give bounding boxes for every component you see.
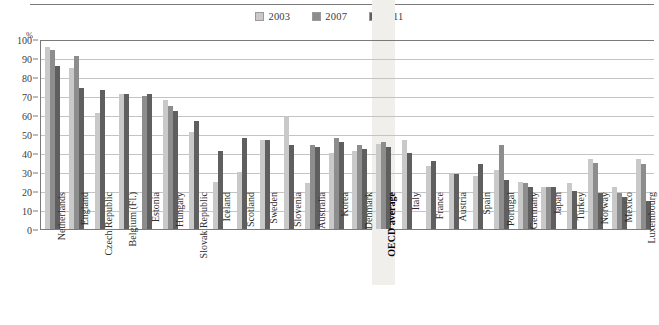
x-axis-label: Germany	[528, 192, 539, 229]
x-axis-label: Netherlands	[56, 192, 67, 240]
x-axis-label: Korea	[339, 192, 350, 216]
header-rule	[30, 4, 654, 5]
x-axis-label: Italy	[410, 192, 421, 210]
y-axis-tick-label: 100	[17, 35, 32, 46]
x-axis-label: England	[79, 192, 90, 225]
legend-item-2003[interactable]: 2003	[255, 11, 290, 22]
legend-swatch-icon	[312, 12, 321, 21]
y-axis-tick-mark	[33, 173, 38, 174]
x-axis-label: Slovak Republic	[198, 192, 209, 258]
y-axis-tick-mark	[33, 116, 38, 117]
y-axis-tick-label: 90	[22, 54, 32, 65]
y-axis-tick-label: 20	[22, 187, 32, 198]
legend-label: 2003	[268, 11, 290, 22]
x-axis-label: Turkey	[575, 192, 586, 221]
x-axis-label: Estonia	[150, 192, 161, 222]
legend-item-2007[interactable]: 2007	[312, 11, 347, 22]
y-axis-tick-label: 60	[22, 111, 32, 122]
y-axis-tick-mark	[33, 230, 38, 231]
y-axis-tick-label: 30	[22, 168, 32, 179]
y-axis-tick-mark	[33, 154, 38, 155]
y-axis-tick-mark	[33, 211, 38, 212]
y-axis-tick-mark	[33, 97, 38, 98]
y-axis-tick-mark	[33, 135, 38, 136]
x-axis-label: Luxembourg	[646, 192, 657, 243]
x-axis-label: OECD average	[386, 192, 397, 257]
x-axis-label: Denmark	[363, 192, 374, 229]
y-axis-tick-mark	[33, 78, 38, 79]
x-axis-label: Sweden	[268, 192, 279, 224]
y-axis-tick-label: 50	[22, 130, 32, 141]
x-axis-label: Slovenia	[292, 192, 303, 227]
chart-legend: 200320072011	[0, 11, 659, 22]
y-axis-tick-mark	[33, 59, 38, 60]
y-axis-tick-label: 70	[22, 92, 32, 103]
legend-swatch-icon	[255, 12, 264, 21]
x-axis-label: Spain	[481, 192, 492, 215]
x-axis-label: Portugal	[505, 192, 516, 226]
y-axis-tick-label: 40	[22, 149, 32, 160]
y-axis-tick-mark	[33, 192, 38, 193]
x-axis-label: Mexico	[623, 192, 634, 223]
x-axis-label: Scotland	[245, 192, 256, 227]
x-axis-label: Hungary	[174, 192, 185, 227]
y-axis-tick-mark	[33, 40, 38, 41]
y-axis-tick-label: 80	[22, 73, 32, 84]
x-axis-label: Australia	[316, 192, 327, 229]
y-axis-tick-label: 0	[27, 225, 32, 236]
x-axis-label: Czech Republic	[103, 192, 114, 256]
x-axis-label: France	[434, 192, 445, 219]
chart-page: 200320072011 % 0102030405060708090100 Ne…	[0, 0, 659, 325]
x-axis-label: Norway	[599, 192, 610, 224]
x-axis-label: Iceland	[221, 192, 232, 221]
y-axis-tick-label: 10	[22, 206, 32, 217]
x-axis-label: Belgium (Fl.)	[127, 192, 138, 246]
legend-label: 2007	[325, 11, 347, 22]
x-axis-label: Japan	[552, 192, 563, 215]
x-axis-label: Austria	[457, 192, 468, 221]
y-axis: 0102030405060708090100	[0, 40, 40, 245]
x-axis-labels: NetherlandsEnglandCzech RepublicBelgium …	[40, 192, 654, 325]
